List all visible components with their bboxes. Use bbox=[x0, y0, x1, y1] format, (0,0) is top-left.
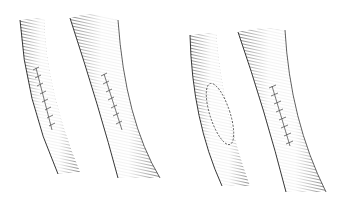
vessel-1 bbox=[20, 18, 80, 174]
vessel-4 bbox=[238, 28, 326, 192]
vessel-suture-illustration bbox=[0, 0, 343, 207]
vessel-3 bbox=[190, 33, 250, 186]
vessel-2 bbox=[70, 14, 160, 178]
